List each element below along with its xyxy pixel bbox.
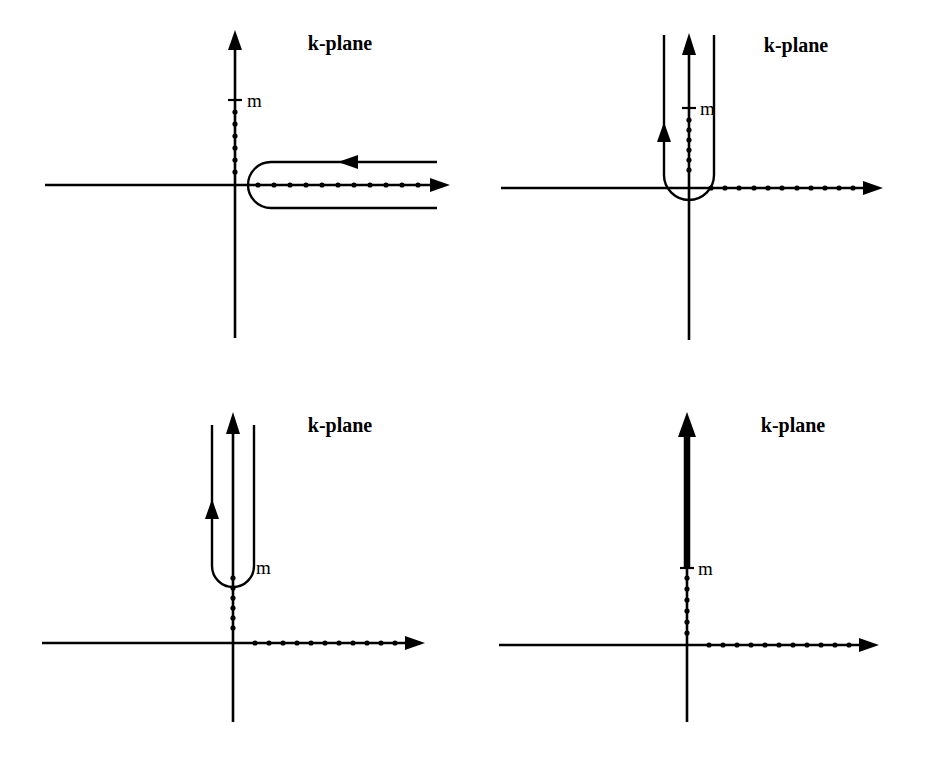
cut-dot (684, 575, 689, 580)
imaginary-axis-arrow-icon (226, 412, 240, 434)
cut-dot (230, 575, 235, 580)
cut-dot (266, 640, 271, 645)
cut-dot (319, 182, 324, 187)
cut-dot (776, 642, 781, 647)
cut-dot (392, 640, 397, 645)
axes-group (42, 412, 425, 722)
cut-dot (255, 182, 260, 187)
cut-dot (350, 640, 355, 645)
panel-collapsed-contour: k-plane m (471, 381, 941, 761)
cut-dot (383, 182, 388, 187)
plane-label: k-plane (764, 34, 829, 57)
cut-dot (230, 595, 235, 600)
cut-dot (294, 640, 299, 645)
panel-hairpin-contour: k-plane m (0, 0, 470, 380)
cut-dot (765, 185, 770, 190)
cut-dot (230, 605, 235, 610)
cut-dot (684, 608, 689, 613)
integration-contour (205, 425, 254, 587)
cut-dot (686, 157, 691, 162)
cut-dot (336, 640, 341, 645)
imaginary-axis-arrow-icon (228, 30, 242, 50)
cut-dot (232, 121, 237, 126)
cut-dot (232, 145, 237, 150)
cut-dot (751, 185, 756, 190)
cut-dot (378, 640, 383, 645)
integration-contour (248, 155, 437, 208)
plane-label: k-plane (308, 32, 373, 55)
cut-dot (722, 185, 727, 190)
cut-dot (230, 625, 235, 630)
cut-dot (736, 185, 741, 190)
cut-dot (230, 615, 235, 620)
cut-dot (684, 619, 689, 624)
cut-dot (686, 117, 691, 122)
cut-dot (779, 185, 784, 190)
cut-dot (686, 147, 691, 152)
cut-dot (280, 640, 285, 645)
cut-dot (686, 167, 691, 172)
cut-dot (232, 133, 237, 138)
cut-dot (232, 109, 237, 114)
cut-dot (686, 137, 691, 142)
cut-dot (706, 642, 711, 647)
cut-dot (415, 182, 420, 187)
mass-label: m (256, 557, 271, 578)
cut-dot (804, 642, 809, 647)
real-axis-arrow-icon (859, 638, 879, 652)
cut-dot (308, 640, 313, 645)
cut-dot (832, 642, 837, 647)
cut-dot (684, 586, 689, 591)
real-axis-arrow-icon (405, 636, 425, 650)
cut-dot (367, 182, 372, 187)
contour-direction-arrow-icon (338, 155, 358, 169)
cut-dot (252, 640, 257, 645)
cut-dot (846, 642, 851, 647)
cut-dot (686, 127, 691, 132)
cut-dot (720, 642, 725, 647)
cut-dot (364, 640, 369, 645)
cut-dot (818, 642, 823, 647)
cut-dot (322, 640, 327, 645)
cut-dot (271, 182, 276, 187)
cut-dot (335, 182, 340, 187)
cut-dot (794, 185, 799, 190)
panel-u-contour-at-threshold: k-plane m (0, 381, 470, 761)
cut-dot (287, 182, 292, 187)
k-plane-figure: k-plane m (0, 0, 941, 761)
integration-contour (678, 412, 696, 568)
mass-label: m (698, 558, 713, 579)
real-axis-arrow-icon (863, 181, 883, 195)
cut-dot (850, 185, 855, 190)
cut-dot (822, 185, 827, 190)
contour-direction-arrow-icon (657, 122, 671, 142)
plane-label: k-plane (761, 414, 826, 437)
real-axis-arrow-icon (430, 178, 450, 192)
mass-label: m (700, 98, 715, 119)
cut-dot (684, 597, 689, 602)
cut-dot (303, 182, 308, 187)
cut-dot (790, 642, 795, 647)
cut-dot (808, 185, 813, 190)
contour-direction-arrow-icon (678, 412, 696, 437)
cut-dot (351, 182, 356, 187)
plane-label: k-plane (308, 414, 373, 437)
cut-dot (748, 642, 753, 647)
contour-direction-arrow-icon (205, 499, 219, 519)
cut-dot (684, 630, 689, 635)
cut-dot (762, 642, 767, 647)
cut-dot (232, 169, 237, 174)
cut-dot (836, 185, 841, 190)
panel-u-contour-from-origin: k-plane m (471, 0, 941, 380)
cut-dot (734, 642, 739, 647)
cut-dot (232, 157, 237, 162)
imaginary-axis-arrow-icon (682, 33, 696, 55)
mass-label: m (247, 90, 262, 111)
cut-dot (399, 182, 404, 187)
